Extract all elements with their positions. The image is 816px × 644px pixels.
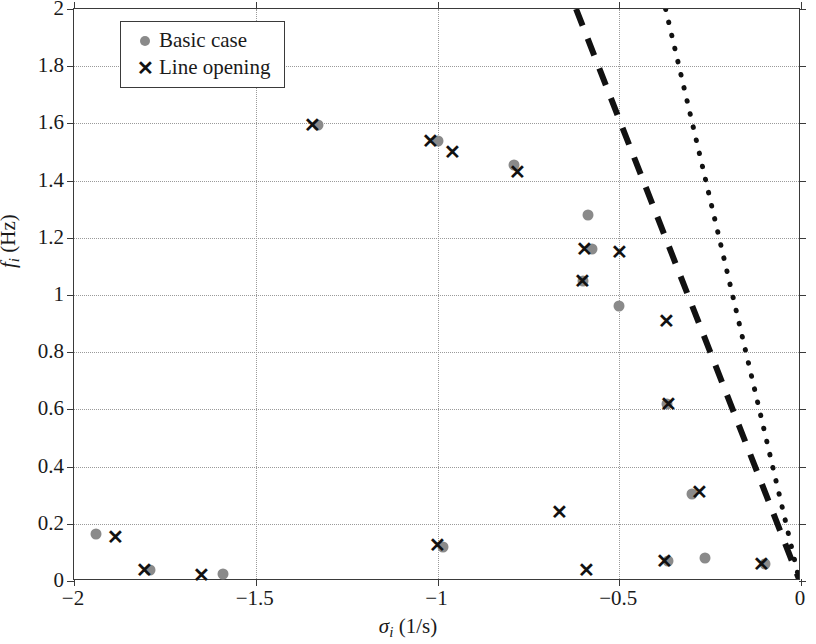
y-tick-mark bbox=[67, 524, 74, 525]
y-tick-label: 1.8 bbox=[38, 53, 64, 78]
legend-label: Line opening bbox=[159, 55, 270, 80]
y-tick-mark bbox=[799, 123, 806, 124]
data-point-line-opening bbox=[303, 115, 322, 134]
x-tick-label: 0 bbox=[795, 586, 806, 611]
y-tick-labels: 00.20.40.60.811.21.41.61.82 bbox=[0, 8, 64, 580]
x-tick-mark bbox=[256, 2, 257, 9]
x-tick-labels: −2−1.5−1−0.50 bbox=[73, 586, 800, 616]
gridline-horizontal bbox=[74, 295, 799, 296]
data-point-line-opening bbox=[192, 566, 211, 585]
x-tick-mark bbox=[256, 579, 257, 586]
gridline-vertical bbox=[256, 9, 257, 579]
data-point-basic-case bbox=[614, 301, 625, 312]
x-tick-mark bbox=[74, 2, 75, 9]
gridline-vertical bbox=[438, 9, 439, 579]
x-axis-subscript: i bbox=[389, 624, 393, 640]
data-point-line-opening bbox=[577, 560, 596, 579]
y-tick-mark bbox=[799, 238, 806, 239]
x-tick-mark bbox=[619, 2, 620, 9]
y-tick-mark bbox=[67, 181, 74, 182]
x-tick-label: −0.5 bbox=[599, 586, 637, 611]
x-axis-unit: (1/s) bbox=[399, 614, 438, 638]
data-point-line-opening bbox=[573, 271, 592, 290]
y-tick-mark bbox=[67, 123, 74, 124]
data-point-line-opening bbox=[421, 131, 440, 150]
y-tick-label: 0.4 bbox=[38, 453, 64, 478]
x-tick-mark bbox=[801, 2, 802, 9]
y-tick-label: 0.6 bbox=[38, 396, 64, 421]
y-tick-label: 1.4 bbox=[38, 167, 64, 192]
data-point-basic-case bbox=[583, 209, 594, 220]
y-tick-mark bbox=[799, 66, 806, 67]
y-tick-label: 2 bbox=[54, 0, 65, 21]
legend-item-line-opening: ✕ Line opening bbox=[131, 54, 270, 81]
y-tick-label: 0.8 bbox=[38, 339, 64, 364]
legend-item-basic-case: Basic case bbox=[131, 27, 270, 54]
y-tick-mark bbox=[67, 581, 74, 582]
x-tick-mark bbox=[619, 579, 620, 586]
data-point-line-opening bbox=[657, 311, 676, 330]
data-point-line-opening bbox=[659, 394, 678, 413]
gridline-horizontal bbox=[74, 238, 799, 239]
y-tick-mark bbox=[799, 9, 806, 10]
dot-marker-icon bbox=[131, 32, 159, 50]
y-tick-mark bbox=[67, 238, 74, 239]
data-point-line-opening bbox=[508, 163, 527, 182]
x-marker-icon: ✕ bbox=[131, 56, 159, 80]
gridline-horizontal bbox=[74, 467, 799, 468]
data-point-line-opening bbox=[690, 483, 709, 502]
legend: Basic case ✕ Line opening bbox=[120, 21, 285, 88]
x-tick-mark bbox=[74, 579, 75, 586]
y-tick-label: 1.2 bbox=[38, 224, 64, 249]
y-tick-mark bbox=[67, 9, 74, 10]
y-tick-mark bbox=[67, 409, 74, 410]
x-tick-label: −1.5 bbox=[236, 586, 274, 611]
legend-label: Basic case bbox=[159, 28, 247, 53]
plot-area: Basic case ✕ Line opening bbox=[73, 8, 800, 580]
chart-figure: fi (Hz) 00.20.40.60.811.21.41.61.82 Basi… bbox=[0, 0, 816, 644]
data-point-basic-case bbox=[218, 568, 229, 579]
gridline-horizontal bbox=[74, 123, 799, 124]
y-tick-label: 1 bbox=[54, 282, 65, 307]
y-tick-mark bbox=[799, 352, 806, 353]
data-point-line-opening bbox=[428, 536, 447, 555]
gridline-horizontal bbox=[74, 524, 799, 525]
data-point-line-opening bbox=[610, 243, 629, 262]
data-point-basic-case bbox=[90, 528, 101, 539]
x-axis-title: σi (1/s) bbox=[0, 614, 816, 641]
y-tick-mark bbox=[799, 467, 806, 468]
y-tick-mark bbox=[799, 409, 806, 410]
y-tick-label: 1.6 bbox=[38, 110, 64, 135]
y-tick-label: 0.2 bbox=[38, 510, 64, 535]
data-point-line-opening bbox=[550, 503, 569, 522]
data-point-basic-case bbox=[699, 553, 710, 564]
x-tick-mark bbox=[438, 2, 439, 9]
x-tick-mark bbox=[801, 579, 802, 586]
data-point-line-opening bbox=[575, 240, 594, 259]
y-tick-mark bbox=[799, 181, 806, 182]
y-tick-mark bbox=[67, 352, 74, 353]
gridline-horizontal bbox=[74, 409, 799, 410]
y-tick-mark bbox=[67, 66, 74, 67]
data-point-line-opening bbox=[135, 560, 154, 579]
gridline-horizontal bbox=[74, 352, 799, 353]
x-axis-symbol: σ bbox=[379, 614, 389, 638]
x-tick-label: −1 bbox=[425, 586, 447, 611]
y-tick-mark bbox=[67, 295, 74, 296]
data-point-line-opening bbox=[752, 554, 771, 573]
gridline-vertical bbox=[619, 9, 620, 579]
data-point-line-opening bbox=[443, 143, 462, 162]
data-point-line-opening bbox=[655, 551, 674, 570]
y-tick-mark bbox=[799, 295, 806, 296]
data-point-line-opening bbox=[106, 527, 125, 546]
x-tick-label: −2 bbox=[62, 586, 84, 611]
y-tick-mark bbox=[67, 467, 74, 468]
x-tick-mark bbox=[438, 579, 439, 586]
gridline-horizontal bbox=[74, 181, 799, 182]
y-tick-mark bbox=[799, 524, 806, 525]
